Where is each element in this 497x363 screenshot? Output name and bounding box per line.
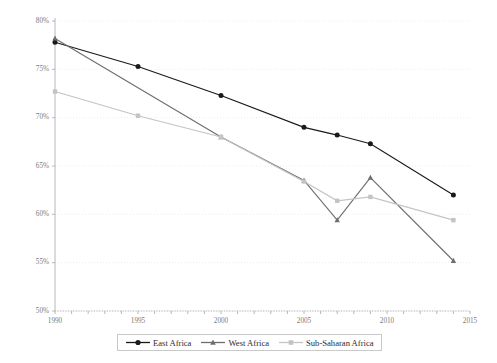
- y-tick-label: 50%: [19, 307, 49, 315]
- x-tick-label: 1990: [35, 317, 75, 325]
- y-tick-label: 75%: [19, 65, 49, 73]
- axis-lines: [52, 18, 470, 311]
- y-tick-label: 65%: [19, 162, 49, 170]
- y-tick-label: 80%: [19, 17, 49, 25]
- legend-item-east-africa[interactable]: East Africa: [125, 338, 191, 348]
- chart-plot-area: [0, 0, 497, 363]
- legend-label: East Africa: [153, 338, 191, 348]
- legend-label: West Africa: [228, 338, 269, 348]
- gridlines: [55, 21, 470, 311]
- chart-legend: East AfricaWest AfricaSub-Saharan Africa: [117, 334, 382, 351]
- legend-item-sub-saharan-africa[interactable]: Sub-Saharan Africa: [278, 338, 374, 348]
- x-tick-label: 2010: [367, 317, 407, 325]
- series-lines: [55, 38, 453, 260]
- circle-marker-icon: [125, 338, 151, 347]
- triangle-marker-icon: [200, 338, 226, 347]
- x-tick-label: 2005: [284, 317, 324, 325]
- y-tick-label: 60%: [19, 210, 49, 218]
- chart-container: Urban population living in slums 50%55%6…: [0, 0, 497, 363]
- legend-item-west-africa[interactable]: West Africa: [200, 338, 269, 348]
- x-tick-label: 1995: [118, 317, 158, 325]
- x-tick-label: 2015: [450, 317, 490, 325]
- y-tick-label: 55%: [19, 258, 49, 266]
- legend-label: Sub-Saharan Africa: [306, 338, 374, 348]
- x-tick-label: 2000: [201, 317, 241, 325]
- square-marker-icon: [278, 338, 304, 347]
- y-tick-label: 70%: [19, 113, 49, 121]
